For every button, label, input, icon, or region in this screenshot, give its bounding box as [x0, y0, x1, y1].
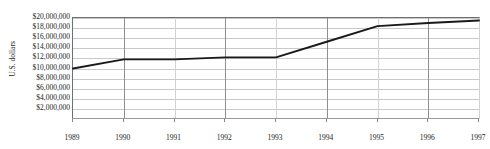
x-axis-tick-label: 1997 — [458, 133, 490, 143]
x-axis-tick-label: 1992 — [204, 133, 244, 143]
x-axis-tickmarks — [0, 118, 490, 123]
x-axis-tickmark — [427, 118, 428, 122]
x-axis-tick-label: 1989 — [52, 133, 92, 143]
y-axis-tick-label: $10,000,000 — [14, 64, 70, 72]
x-axis-tickmark — [326, 118, 327, 122]
series-line-u-s-dollars — [73, 21, 479, 69]
x-axis-tick-label: 1993 — [255, 133, 295, 143]
x-axis-tickmark — [377, 118, 378, 122]
x-axis-tickmark — [478, 118, 479, 122]
y-axis-tick-label: $12,000,000 — [14, 53, 70, 61]
chart-title — [0, 0, 490, 7]
x-axis-tickmark — [174, 118, 175, 122]
y-axis-tick-label: $6,000,000 — [14, 84, 70, 92]
plot-area — [72, 17, 480, 119]
x-axis-tick-labels: 198919901991199219931994199519961997 — [0, 133, 490, 145]
x-axis-tick-label: 1995 — [357, 133, 397, 143]
y-axis-tick-label: $20,000,000 — [14, 13, 70, 21]
y-axis-tick-label: $18,000,000 — [14, 23, 70, 31]
x-axis-tickmark — [275, 118, 276, 122]
y-axis-tick-label: $16,000,000 — [14, 33, 70, 41]
gridline-vertical — [479, 18, 480, 119]
x-axis-tick-label: 1994 — [306, 133, 346, 143]
y-axis-tick-label: $14,000,000 — [14, 43, 70, 51]
x-axis-tickmark — [123, 118, 124, 122]
y-axis-tick-label: $4,000,000 — [14, 94, 70, 102]
x-axis-tickmark — [224, 118, 225, 122]
x-axis-tick-label: 1996 — [407, 133, 447, 143]
y-axis-tick-labels: $20,000,000$18,000,000$16,000,000$14,000… — [14, 12, 70, 120]
line-chart-figure: U.S. dollars $20,000,000$18,000,000$16,0… — [0, 0, 490, 149]
x-axis-tick-label: 1990 — [103, 133, 143, 143]
x-axis-tick-label: 1991 — [154, 133, 194, 143]
x-axis-tickmark — [72, 118, 73, 122]
data-series-line — [73, 18, 479, 119]
y-axis-tick-label: $8,000,000 — [14, 74, 70, 82]
y-axis-tick-label: $2,000,000 — [14, 104, 70, 112]
